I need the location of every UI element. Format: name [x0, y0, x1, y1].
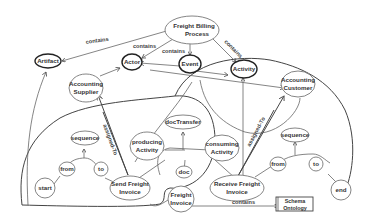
node-consuming-activity[interactable]: consuming Activity	[205, 135, 239, 161]
svg-text:Activity: Activity	[136, 146, 159, 153]
svg-text:Event: Event	[182, 60, 199, 67]
edge-actor-customer	[150, 70, 284, 88]
node-activity[interactable]: Activity	[231, 60, 257, 78]
svg-text:Accounting: Accounting	[281, 76, 315, 83]
node-send-freight-invoice[interactable]: Send Freight Invoice	[110, 176, 150, 200]
svg-text:Process: Process	[185, 30, 210, 37]
right-process-boundary	[175, 58, 353, 188]
node-schema-ontology[interactable]: Schema Ontology	[276, 197, 313, 211]
svg-text:Receive Freight: Receive Freight	[214, 180, 260, 187]
svg-text:producing: producing	[132, 138, 162, 145]
svg-text:Invoice: Invoice	[119, 188, 141, 195]
node-doc-transfer[interactable]: docTransfer	[165, 115, 201, 129]
svg-text:Accounting: Accounting	[69, 80, 103, 87]
label-contains-artifact: contains	[85, 36, 109, 45]
node-start[interactable]: start	[35, 178, 55, 198]
node-accounting-supplier[interactable]: Accounting Supplier	[69, 74, 103, 102]
edge-from-receive	[255, 166, 272, 177]
edge-event-activity	[196, 71, 228, 75]
node-from-left[interactable]: from	[59, 162, 75, 176]
freight-billing-ontology-diagram: Freight Billing Process Artifact Actor E…	[0, 0, 369, 224]
svg-text:start: start	[38, 184, 51, 191]
svg-text:docTransfer: docTransfer	[165, 118, 201, 125]
node-accounting-customer[interactable]: Accounting Customer	[281, 71, 315, 97]
node-producing-activity[interactable]: producing Activity	[130, 132, 164, 160]
node-doc[interactable]: doc	[176, 166, 192, 178]
node-to-left[interactable]: to	[94, 162, 108, 176]
svg-text:to: to	[313, 160, 319, 167]
svg-text:from: from	[271, 160, 285, 167]
node-from-right[interactable]: from	[270, 157, 286, 171]
svg-text:sequence: sequence	[281, 131, 310, 138]
edge-event-actor	[140, 63, 180, 66]
node-event[interactable]: Event	[179, 55, 201, 73]
node-actor[interactable]: Actor	[122, 54, 142, 70]
node-sequence-left[interactable]: sequence	[71, 131, 100, 145]
node-artifact[interactable]: Artifact	[35, 54, 61, 68]
label-contains-schema: contains	[232, 199, 255, 205]
svg-text:Activity: Activity	[233, 65, 256, 72]
svg-text:Send Freight: Send Freight	[111, 180, 149, 187]
svg-text:sequence: sequence	[71, 134, 100, 141]
label-contains-actor: contains	[133, 43, 156, 49]
svg-text:Actor: Actor	[124, 58, 141, 65]
svg-text:to: to	[98, 165, 104, 172]
svg-text:Freight: Freight	[171, 191, 192, 198]
svg-text:consuming: consuming	[205, 140, 238, 147]
node-receive-freight-invoice[interactable]: Receive Freight Invoice	[210, 175, 264, 201]
svg-text:Ontology: Ontology	[283, 205, 307, 211]
node-freight-invoice[interactable]: Freight Invoice	[168, 186, 194, 212]
svg-text:Supplier: Supplier	[74, 88, 99, 95]
svg-text:Freight Billing: Freight Billing	[173, 22, 215, 29]
svg-text:Invoice: Invoice	[170, 199, 192, 206]
svg-text:Schema: Schema	[285, 198, 307, 204]
node-to-right[interactable]: to	[309, 157, 323, 171]
label-contains-event: contains	[162, 48, 185, 54]
svg-text:Invoice: Invoice	[226, 188, 248, 195]
svg-text:Artifact: Artifact	[37, 57, 59, 64]
edge-supplier-actor	[100, 68, 120, 76]
node-end[interactable]: end	[331, 180, 351, 200]
svg-text:Activity: Activity	[211, 148, 234, 155]
node-freight-billing-process[interactable]: Freight Billing Process	[165, 16, 219, 44]
svg-text:from: from	[60, 165, 74, 172]
node-sequence-right[interactable]: sequence	[281, 128, 310, 142]
svg-text:end: end	[335, 186, 346, 193]
svg-text:Customer: Customer	[284, 84, 313, 91]
svg-text:doc: doc	[178, 168, 190, 175]
label-assigned-to-left: assigned-To	[102, 123, 119, 156]
label-contains-activity: contains	[223, 38, 244, 59]
edge-producing-send	[136, 160, 165, 180]
